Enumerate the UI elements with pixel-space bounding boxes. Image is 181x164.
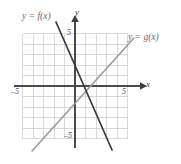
x-axis-tick-label-positive: 5 [122,88,126,96]
coordinate-plane-svg [0,0,181,164]
y-axis-tick-label-negative: –5 [64,132,72,140]
function-label-f: y = f(x) [22,12,51,22]
y-axis-tick-label-positive: 5 [67,29,71,37]
x-axis-label: x [146,80,150,89]
y-axis-label: y [75,8,79,17]
graph-figure: y = f(x) y = g(x) y x 5 –5 –5 5 [0,0,181,164]
x-axis-tick-label-negative: –5 [11,88,19,96]
function-label-g: y = g(x) [128,33,159,43]
x-axis [14,82,147,90]
function-line-g [32,38,134,151]
